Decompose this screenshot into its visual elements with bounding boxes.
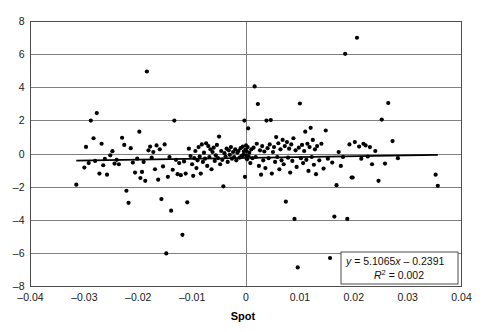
- data-point: [312, 163, 316, 167]
- data-point: [131, 161, 135, 165]
- data-point: [190, 162, 194, 166]
- data-point: [187, 147, 191, 151]
- data-point: [357, 144, 361, 148]
- data-point: [172, 118, 176, 122]
- data-point: [436, 184, 440, 188]
- data-point: [288, 170, 292, 174]
- data-point: [153, 167, 157, 171]
- y-tick-label: –6: [13, 247, 25, 259]
- data-point: [138, 176, 142, 180]
- data-point: [330, 161, 334, 165]
- data-point: [368, 145, 372, 149]
- data-point: [253, 84, 257, 88]
- data-point: [209, 167, 213, 171]
- data-point: [301, 161, 305, 165]
- data-point: [304, 158, 308, 162]
- data-point: [171, 168, 175, 172]
- x-tick-label: 0: [243, 291, 249, 303]
- data-point: [307, 145, 311, 149]
- data-point: [248, 161, 252, 165]
- data-point: [100, 142, 104, 146]
- data-point: [129, 146, 133, 150]
- y-tick-label: –2: [13, 181, 25, 193]
- data-point: [221, 184, 225, 188]
- data-point: [262, 149, 266, 153]
- data-point: [273, 160, 277, 164]
- data-point: [133, 170, 137, 174]
- data-point: [257, 164, 261, 168]
- data-point: [251, 146, 255, 150]
- data-point: [182, 159, 186, 163]
- data-point: [300, 143, 304, 147]
- data-point: [390, 139, 394, 143]
- data-point: [177, 161, 181, 165]
- data-point: [185, 200, 189, 204]
- data-point: [364, 143, 368, 147]
- data-point: [324, 128, 328, 132]
- data-point: [169, 209, 173, 213]
- data-point: [196, 145, 200, 149]
- data-point: [154, 143, 158, 147]
- data-point: [383, 162, 387, 166]
- data-point: [373, 149, 377, 153]
- data-point: [283, 144, 287, 148]
- data-point: [290, 159, 294, 163]
- data-point: [140, 170, 144, 174]
- scatter-plot-figure: –8–6–4–202468 –0.04–0.03–0.02–0.0100.010…: [0, 0, 487, 332]
- data-point: [314, 172, 318, 176]
- data-point: [334, 183, 338, 187]
- data-point: [193, 149, 197, 153]
- data-point: [434, 173, 438, 177]
- data-point: [319, 142, 323, 146]
- data-point: [284, 200, 288, 204]
- data-point: [276, 141, 280, 145]
- data-point: [353, 140, 357, 144]
- data-point: [242, 118, 246, 122]
- x-tick-label: –0.01: [179, 291, 205, 303]
- data-point: [246, 126, 250, 130]
- data-point: [386, 101, 390, 105]
- data-point: [281, 138, 285, 142]
- data-point: [191, 174, 195, 178]
- data-point: [226, 160, 230, 164]
- data-point: [156, 178, 160, 182]
- data-point: [256, 102, 260, 106]
- data-point: [376, 179, 380, 183]
- data-point: [166, 175, 170, 179]
- y-tick-label: 4: [19, 81, 25, 93]
- r-squared-line: R2 = 0.002: [374, 268, 424, 282]
- data-point: [91, 136, 95, 140]
- data-point: [258, 148, 262, 152]
- data-point: [143, 179, 147, 183]
- data-point: [274, 135, 278, 139]
- data-point: [339, 164, 343, 168]
- y-tick-label: 6: [19, 48, 25, 60]
- x-axis-tick-labels: –0.04–0.03–0.02–0.0100.010.020.030.04: [17, 291, 472, 303]
- data-point: [351, 175, 355, 179]
- data-point: [228, 153, 232, 157]
- data-point: [321, 166, 325, 170]
- y-tick-label: 8: [19, 15, 25, 27]
- data-point: [332, 215, 336, 219]
- data-point: [295, 165, 299, 169]
- data-point: [297, 146, 301, 150]
- equation-line: y = 5.1065x – 0.2391: [345, 255, 445, 267]
- data-point: [287, 147, 291, 151]
- x-tick-label: 0.02: [344, 291, 365, 303]
- data-point: [282, 162, 286, 166]
- data-point: [74, 183, 78, 187]
- data-point: [146, 148, 150, 152]
- data-point: [163, 142, 167, 146]
- data-point: [345, 217, 349, 221]
- data-point: [359, 157, 363, 161]
- data-point: [285, 140, 289, 144]
- data-point: [315, 144, 319, 148]
- data-point: [95, 111, 99, 115]
- data-point: [215, 143, 219, 147]
- data-point: [179, 173, 183, 177]
- data-point: [161, 164, 165, 168]
- data-point: [202, 151, 206, 155]
- data-point: [87, 161, 91, 165]
- data-point: [264, 118, 268, 122]
- data-point: [328, 256, 332, 260]
